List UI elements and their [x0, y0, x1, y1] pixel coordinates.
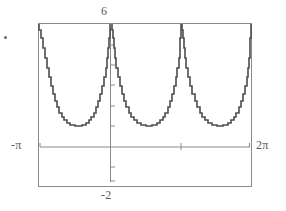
- y-max-label: 6: [101, 5, 107, 17]
- x-min-label: -π: [11, 139, 21, 151]
- curve-branch-2: [112, 24, 181, 126]
- y-min-label: -2: [101, 189, 111, 201]
- x-max-label: 2π: [256, 139, 268, 151]
- curve-branch-3: [182, 24, 251, 126]
- y-axis-ticks: [111, 45, 116, 181]
- curve-csc-squared: [39, 24, 251, 126]
- math-plot-figure: 6 -2 -π 2π: [0, 0, 286, 211]
- plot-canvas: [0, 0, 286, 211]
- curve-branch-1: [39, 24, 110, 126]
- plot-frame: [39, 24, 252, 187]
